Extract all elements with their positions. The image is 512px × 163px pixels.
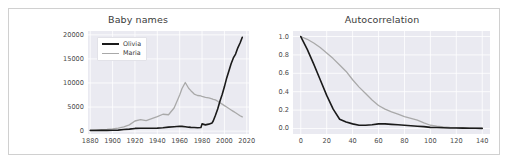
y-tick-label: 0.2 [273, 106, 289, 114]
x-tick-label: 80 [400, 137, 408, 145]
y-tick-label: 0.8 [273, 51, 289, 59]
y-tick-label: 1.0 [273, 33, 289, 41]
y-tick-label: 0.4 [273, 88, 289, 96]
y-tick-label: 0.0 [273, 124, 289, 132]
x-tick-label: 100 [424, 137, 437, 145]
chart-panel-baby-names: Baby names 05000100001500020000 18801900… [9, 9, 255, 156]
legend-item-maria: Maria [102, 50, 141, 56]
figure-frame: Baby names 05000100001500020000 18801900… [8, 8, 500, 155]
x-tick-label: 120 [450, 137, 463, 145]
plot-canvas-autocorrelation [293, 31, 490, 134]
legend-item-olivia: Olivia [102, 41, 141, 47]
x-tick-label: 60 [374, 137, 382, 145]
legend-swatch-maria-icon [102, 53, 119, 54]
series-line-maria [301, 37, 482, 129]
x-tick-label: 1960 [171, 137, 188, 145]
y-tick-label: 15000 [54, 55, 84, 63]
x-tick-label: 0 [299, 137, 303, 145]
x-tick-label: 1880 [82, 137, 99, 145]
series-line-maria [90, 83, 242, 130]
x-tick-label: 1920 [127, 137, 144, 145]
series-line-olivia [301, 37, 482, 129]
y-tick-label: 20000 [54, 31, 84, 39]
x-tick-label: 2000 [216, 137, 233, 145]
plot-area-autocorrelation [293, 31, 490, 134]
y-tick-label: 10000 [54, 79, 84, 87]
x-tick-label: 1940 [149, 137, 166, 145]
y-tick-label: 0.6 [273, 69, 289, 77]
y-tick-label: 5000 [54, 103, 84, 111]
y-tick-label: 0 [54, 127, 84, 135]
legend-swatch-olivia-icon [102, 43, 119, 45]
x-tick-label: 1980 [194, 137, 211, 145]
x-tick-label: 140 [476, 137, 489, 145]
legend-label: Maria [123, 50, 141, 56]
x-tick-label: 40 [348, 137, 356, 145]
x-tick-label: 1900 [104, 137, 121, 145]
legend-label: Olivia [123, 41, 141, 47]
chart-title-autocorrelation: Autocorrelation [263, 14, 501, 25]
legend-baby-names: OliviaMaria [97, 37, 147, 61]
chart-panel-autocorrelation: Autocorrelation 0.00.20.40.60.81.0 02040… [255, 9, 501, 156]
x-tick-label: 20 [322, 137, 330, 145]
chart-title-baby-names: Baby names [21, 14, 255, 25]
x-tick-label: 2020 [238, 137, 255, 145]
